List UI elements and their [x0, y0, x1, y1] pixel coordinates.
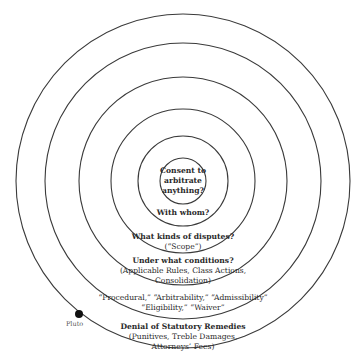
ring-3-label: What kinds of disputes? (“Scope”)	[132, 232, 234, 252]
ring-6-detail-2: Attorneys’ Fees)	[120, 342, 245, 352]
ring-1-line-1: Consent to	[160, 166, 206, 176]
ring-5-detail-1: “Procedural,” “Arbitrability,” “Admissib…	[98, 293, 267, 303]
pluto-marker-dot	[75, 310, 83, 318]
ring-4-label: Under what conditions? (Applicable Rules…	[120, 256, 246, 286]
ring-3-detail: (“Scope”)	[132, 242, 234, 252]
ring-2-title: With whom?	[157, 208, 210, 218]
ring-4-title: Under what conditions?	[120, 256, 246, 266]
ring-5-label: “Procedural,” “Arbitrability,” “Admissib…	[98, 293, 267, 313]
ring-4-detail-2: Consolidation)	[120, 276, 246, 286]
ring-6-detail-1: (Punitives, Treble Damages,	[120, 332, 245, 342]
ring-2-label: With whom?	[157, 208, 210, 218]
ring-6-label: Denial of Statutory Remedies (Punitives,…	[120, 322, 245, 352]
ring-3-title: What kinds of disputes?	[132, 232, 234, 242]
ring-5-detail-2: “Eligibility,” “Waiver”	[98, 303, 267, 313]
ring-6-title: Denial of Statutory Remedies	[120, 322, 245, 332]
ring-1-line-2: arbitrate	[160, 176, 206, 186]
ring-1-line-3: anything?	[160, 186, 206, 196]
ring-4-detail-1: (Applicable Rules, Class Actions,	[120, 266, 246, 276]
pluto-label: Pluto	[66, 320, 83, 328]
ring-1-label: Consent to arbitrate anything?	[160, 166, 206, 196]
